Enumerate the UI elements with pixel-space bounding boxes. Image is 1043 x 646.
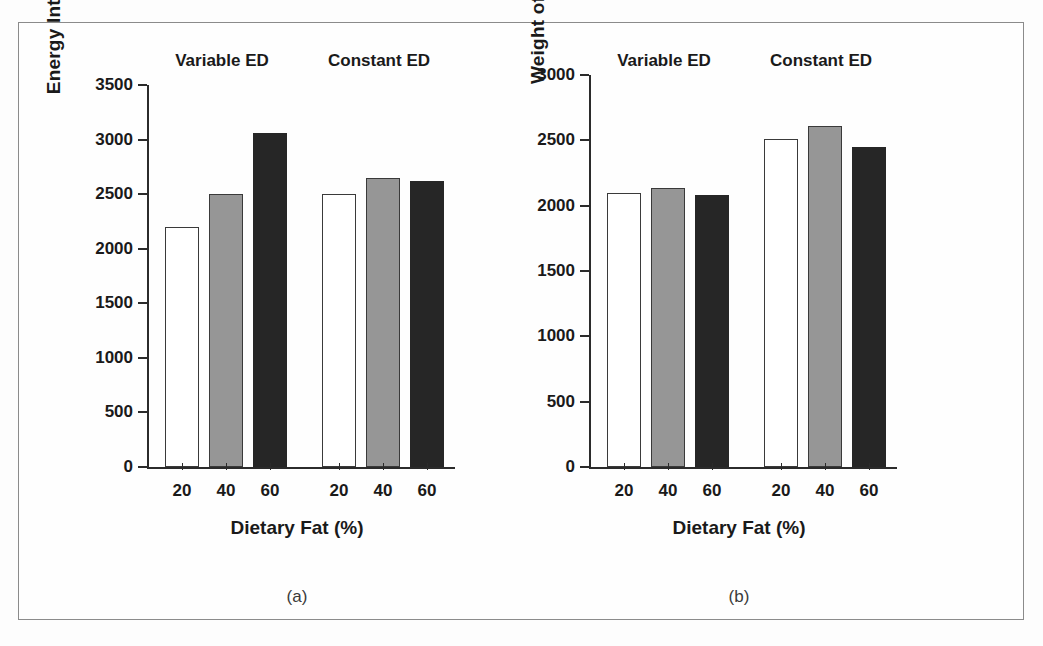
y-tick-mark	[138, 139, 147, 141]
figure-frame: Energy Intake (kcal/day) 050010001500200…	[18, 22, 1024, 620]
bar	[695, 195, 729, 467]
group-title-constant-ed-a: Constant ED	[328, 51, 430, 71]
y-tick-mark	[580, 74, 589, 76]
panel-tag-a: (a)	[287, 587, 308, 607]
bar-group-b: 204060204060	[589, 75, 889, 467]
y-tick-label: 500	[547, 392, 575, 412]
bar	[764, 139, 798, 467]
x-axis-line-a	[147, 467, 455, 469]
x-tick-mark	[339, 463, 340, 470]
y-tick-mark	[580, 205, 589, 207]
x-axis-label-b: Dietary Fat (%)	[672, 517, 805, 539]
plot-area-a: 0500100015002000250030003500 20406020406…	[147, 85, 447, 467]
y-tick-label: 1000	[537, 326, 575, 346]
x-axis-line-b	[589, 467, 897, 469]
x-tick-label: 60	[418, 481, 437, 501]
x-tick-label: 20	[173, 481, 192, 501]
x-tick-label: 60	[860, 481, 879, 501]
chart-panel-a: Energy Intake (kcal/day) 050010001500200…	[29, 23, 519, 621]
y-tick-mark	[580, 401, 589, 403]
x-tick-mark	[427, 463, 428, 470]
x-axis-label-a: Dietary Fat (%)	[230, 517, 363, 539]
y-tick-mark	[138, 302, 147, 304]
y-tick-label: 2500	[95, 184, 133, 204]
y-tick-mark	[138, 411, 147, 413]
y-tick-mark	[138, 357, 147, 359]
y-tick-label: 0	[124, 457, 133, 477]
y-tick-mark	[580, 270, 589, 272]
x-tick-mark	[226, 463, 227, 470]
panel-tag-b: (b)	[729, 587, 750, 607]
x-tick-mark	[869, 463, 870, 470]
group-title-variable-ed-a: Variable ED	[175, 51, 269, 71]
x-tick-label: 40	[374, 481, 393, 501]
y-axis-label-a: Energy Intake (kcal/day)	[43, 0, 65, 143]
y-tick-mark	[138, 84, 147, 86]
bar	[322, 194, 356, 467]
bar	[410, 181, 444, 467]
x-tick-mark	[668, 463, 669, 470]
bar	[651, 188, 685, 467]
x-tick-mark	[825, 463, 826, 470]
x-tick-label: 60	[703, 481, 722, 501]
y-tick-label: 3500	[95, 75, 133, 95]
x-tick-label: 40	[217, 481, 236, 501]
y-tick-label: 1500	[95, 293, 133, 313]
bar	[852, 147, 886, 467]
x-tick-label: 40	[816, 481, 835, 501]
x-tick-mark	[182, 463, 183, 470]
group-title-constant-ed-b: Constant ED	[770, 51, 872, 71]
y-tick-mark	[138, 466, 147, 468]
y-tick-mark	[138, 193, 147, 195]
group-title-variable-ed-b: Variable ED	[617, 51, 711, 71]
y-tick-mark	[580, 139, 589, 141]
bar	[253, 133, 287, 467]
y-tick-label: 1500	[537, 261, 575, 281]
y-tick-label: 0	[566, 457, 575, 477]
y-tick-label: 500	[105, 402, 133, 422]
y-tick-mark	[580, 466, 589, 468]
x-tick-mark	[712, 463, 713, 470]
x-tick-label: 20	[772, 481, 791, 501]
y-tick-label: 3000	[537, 65, 575, 85]
bar	[366, 178, 400, 467]
x-tick-label: 20	[615, 481, 634, 501]
x-tick-mark	[383, 463, 384, 470]
y-tick-mark	[580, 335, 589, 337]
bar	[808, 126, 842, 467]
bar-group-a: 204060204060	[147, 85, 447, 467]
x-tick-label: 40	[659, 481, 678, 501]
y-tick-label: 2500	[537, 130, 575, 150]
x-tick-label: 60	[261, 481, 280, 501]
x-tick-mark	[270, 463, 271, 470]
y-tick-label: 2000	[537, 196, 575, 216]
y-tick-label: 1000	[95, 348, 133, 368]
bar	[607, 193, 641, 467]
y-tick-label: 3000	[95, 130, 133, 150]
bar	[209, 194, 243, 467]
y-tick-label: 2000	[95, 239, 133, 259]
plot-area-b: 050010001500200025003000 204060204060 Va…	[589, 75, 889, 467]
x-tick-label: 20	[330, 481, 349, 501]
x-tick-mark	[624, 463, 625, 470]
chart-panel-b: Weight of Food (g/day) 05001000150020002…	[519, 23, 1015, 621]
x-tick-mark	[781, 463, 782, 470]
bar	[165, 227, 199, 467]
y-tick-mark	[138, 248, 147, 250]
